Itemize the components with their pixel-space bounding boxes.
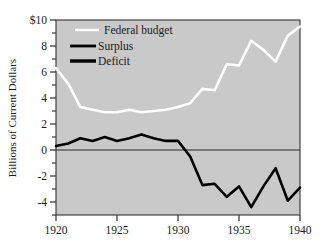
x-tick-label: 1940 [289, 224, 312, 236]
x-tick-label: 1920 [45, 224, 68, 236]
y-tick-label: -4 [37, 196, 47, 208]
y-axis-title: Billions of Current Dollars [6, 59, 18, 177]
y-tick-label: $10 [30, 14, 48, 26]
x-tick-label: 1925 [106, 224, 129, 236]
y-tick-label: 6 [41, 66, 47, 78]
legend-label-surplus: Surplus [98, 40, 134, 53]
x-tick-label: 1935 [228, 224, 251, 236]
legend-label-federal-budget: Federal budget [104, 24, 173, 37]
x-tick-label: 1930 [167, 224, 190, 236]
line-chart: -4-202468$10 19201925193019351940 Federa… [0, 0, 325, 246]
chart-figure: -4-202468$10 19201925193019351940 Federa… [0, 0, 325, 246]
y-tick-label: 8 [41, 40, 47, 52]
legend-label-deficit: Deficit [98, 55, 131, 67]
y-tick-label: 0 [41, 144, 47, 156]
y-tick-label: -2 [37, 170, 47, 182]
y-tick-label: 2 [41, 118, 47, 130]
y-tick-label: 4 [41, 92, 47, 104]
